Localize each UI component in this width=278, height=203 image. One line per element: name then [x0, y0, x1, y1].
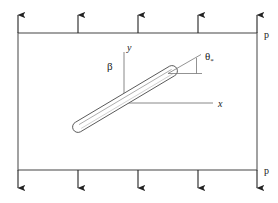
figure-canvas: [0, 0, 278, 203]
inclusion-body: [73, 66, 178, 133]
beta-angle-label: β: [107, 61, 113, 72]
theta-inclined-ray: [168, 55, 201, 74]
inclusion-inner-line: [81, 74, 173, 129]
bottom-load-arrows: [18, 170, 257, 188]
figure-root: p p y x β θ*: [0, 0, 278, 203]
load-label-bottom-p: p: [264, 166, 269, 176]
x-axis-label: x: [218, 99, 222, 109]
top-load-arrows: [18, 15, 257, 33]
beta-angle-arc: [124, 78, 140, 85]
load-label-top-p: p: [264, 30, 269, 40]
y-axis-label: y: [127, 43, 131, 53]
inclusion-inner-line: [79, 69, 172, 124]
theta-angle-construction: [168, 55, 202, 74]
theta-angle-label: θ*: [205, 51, 214, 65]
theta-subscript: *: [210, 57, 214, 65]
